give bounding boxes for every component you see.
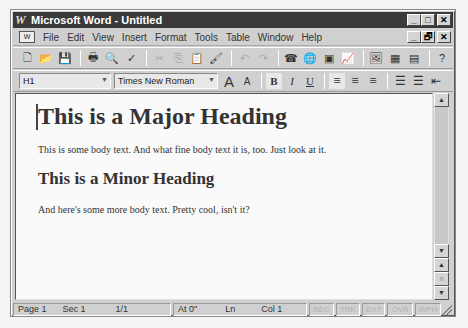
scroll-up-button[interactable]: ▲ <box>434 93 449 107</box>
align-left-button[interactable]: ≡ <box>329 73 345 89</box>
toolbar-separator <box>231 50 232 66</box>
menu-edit[interactable]: Edit <box>63 32 88 43</box>
font-dropdown[interactable]: Times New Roman ▼ <box>114 73 218 89</box>
toolbar-separator <box>278 50 279 66</box>
insert-table-icon[interactable]: ▤ <box>406 50 422 66</box>
previous-page-button[interactable]: ▲ <box>434 258 449 272</box>
chevron-down-icon: ▼ <box>208 76 215 83</box>
cut-icon[interactable]: ✂ <box>151 50 167 66</box>
close-button[interactable]: ✕ <box>437 14 451 26</box>
word-app-icon[interactable]: W <box>15 13 29 28</box>
redo-icon[interactable]: ↷ <box>255 50 271 66</box>
document-area[interactable]: This is a Major Heading This is some bod… <box>15 93 433 300</box>
style-dropdown[interactable]: H1 ▼ <box>19 73 111 89</box>
status-col: Col 1 <box>261 304 282 314</box>
major-heading[interactable]: This is a Major Heading <box>38 103 287 130</box>
status-section: Sec 1 <box>63 304 86 314</box>
status-rec[interactable]: REC <box>309 303 334 316</box>
print-preview-icon[interactable]: 🔍 <box>104 50 120 66</box>
status-at: At 0" <box>178 304 197 314</box>
new-icon[interactable]: 🗋 <box>19 50 35 66</box>
standard-toolbar: 🗋 📂 💾 🖶 🔍 ✓ ✂ ⎘ 📋 🖌 ↶ ↷ ☎ 🌐 ▣ 📈 🖼 ▦ ▤ ? <box>13 47 453 69</box>
document-control-icon[interactable]: W <box>19 31 35 43</box>
scroll-thumb[interactable] <box>435 107 448 252</box>
status-pages: 1/1 <box>116 304 129 314</box>
menu-view[interactable]: View <box>88 32 118 43</box>
scroll-down-button[interactable]: ▼ <box>434 244 449 258</box>
insert-map-icon[interactable]: ▣ <box>321 50 337 66</box>
minor-heading[interactable]: This is a Minor Heading <box>38 169 214 189</box>
address-book-icon[interactable]: ☎ <box>283 50 299 66</box>
status-ovr[interactable]: OVR <box>387 303 412 316</box>
paste-icon[interactable]: 📋 <box>189 50 205 66</box>
decrease-indent-button[interactable]: ⇤ <box>428 73 444 89</box>
status-line: Ln <box>225 304 235 314</box>
save-icon[interactable]: 💾 <box>57 50 73 66</box>
open-icon[interactable]: 📂 <box>38 50 54 66</box>
style-value: H1 <box>23 76 35 86</box>
menu-file[interactable]: File <box>39 32 63 43</box>
doc-minimize-button[interactable]: _ <box>407 31 421 43</box>
menu-bar: W File Edit View Insert Format Tools Tab… <box>13 29 453 46</box>
chevron-down-icon: ▼ <box>101 76 108 83</box>
maximize-button[interactable]: □ <box>421 14 435 26</box>
underline-button[interactable]: U <box>302 73 318 89</box>
align-center-button[interactable]: ≡ <box>347 73 363 89</box>
body-text-2[interactable]: And here's some more body text. Pretty c… <box>38 204 250 215</box>
menu-insert[interactable]: Insert <box>118 32 151 43</box>
undo-icon[interactable]: ↶ <box>236 50 252 66</box>
toolbar-separator <box>80 50 81 66</box>
insert-chart-icon[interactable]: 📈 <box>340 50 356 66</box>
vertical-scrollbar[interactable]: ▲ ▼ ▲ ○ ▼ <box>434 93 449 300</box>
status-ext[interactable]: EXT <box>362 303 386 316</box>
insert-hyperlink-icon[interactable]: 🌐 <box>302 50 318 66</box>
doc-restore-button[interactable]: 🗗 <box>421 31 435 43</box>
bulleted-list-button[interactable]: ☰ <box>410 73 426 89</box>
toolbar-separator <box>429 50 430 66</box>
toolbar-separator <box>324 73 325 89</box>
body-text-1[interactable]: This is some body text. And what fine bo… <box>38 144 326 155</box>
window-title: Microsoft Word - Untitled <box>31 14 162 26</box>
menu-format[interactable]: Format <box>151 32 191 43</box>
copy-icon[interactable]: ⎘ <box>170 50 186 66</box>
menu-window[interactable]: Window <box>254 32 298 43</box>
status-bar: Page 1 Sec 1 1/1 At 0" Ln Col 1 REC TRK … <box>13 302 453 316</box>
insert-picture-icon[interactable]: 🖼 <box>368 50 384 66</box>
title-bar[interactable]: W Microsoft Word - Untitled _ □ ✕ <box>13 12 453 28</box>
status-position: At 0" Ln Col 1 <box>173 303 307 316</box>
select-browse-object-button[interactable]: ○ <box>434 272 449 286</box>
toolbar-separator <box>363 50 364 66</box>
numbered-list-button[interactable]: ☰ <box>392 73 408 89</box>
status-wph[interactable]: WPH <box>415 303 442 316</box>
minimize-button[interactable]: _ <box>407 14 421 26</box>
next-page-button[interactable]: ▼ <box>434 286 449 300</box>
resize-grip[interactable] <box>442 305 452 315</box>
status-trk[interactable]: TRK <box>336 303 360 316</box>
spelling-icon[interactable]: ✓ <box>123 50 139 66</box>
print-icon[interactable]: 🖶 <box>85 50 101 66</box>
insert-frame-icon[interactable]: ▦ <box>387 50 403 66</box>
italic-button[interactable]: I <box>284 73 300 89</box>
word-window: W Microsoft Word - Untitled _ □ ✕ W File… <box>10 9 456 317</box>
doc-close-button[interactable]: ✕ <box>437 31 451 43</box>
help-icon[interactable]: ? <box>434 50 450 66</box>
grow-font-button[interactable]: A <box>221 73 237 89</box>
shrink-font-button[interactable]: A <box>239 73 255 89</box>
toolbar-separator <box>261 73 262 89</box>
font-value: Times New Roman <box>118 76 194 86</box>
menu-table[interactable]: Table <box>222 32 254 43</box>
toolbar-separator <box>146 50 147 66</box>
menu-help[interactable]: Help <box>297 32 326 43</box>
formatting-toolbar: H1 ▼ Times New Roman ▼ A A B I U ≡ ≡ ≡ ☰… <box>13 70 453 92</box>
bold-button[interactable]: B <box>266 73 282 89</box>
toolbar-separator <box>387 73 388 89</box>
format-painter-icon[interactable]: 🖌 <box>208 50 224 66</box>
status-page-section: Page 1 Sec 1 1/1 <box>13 303 171 316</box>
menu-tools[interactable]: Tools <box>191 32 222 43</box>
status-page: Page 1 <box>18 304 47 314</box>
align-right-button[interactable]: ≡ <box>365 73 381 89</box>
